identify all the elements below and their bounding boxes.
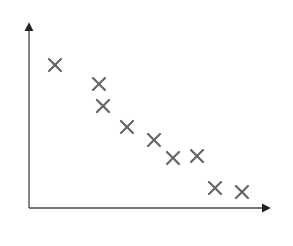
x-marker: [209, 182, 221, 194]
x-marker: [93, 78, 105, 90]
x-marker: [121, 121, 133, 133]
x-marker: [49, 59, 61, 71]
x-marker: [97, 100, 109, 112]
x-marker: [191, 150, 203, 162]
x-marker: [148, 134, 160, 146]
data-points: [49, 59, 248, 198]
x-marker: [167, 152, 179, 164]
scatter-chart: [0, 0, 293, 246]
x-marker: [236, 186, 248, 198]
